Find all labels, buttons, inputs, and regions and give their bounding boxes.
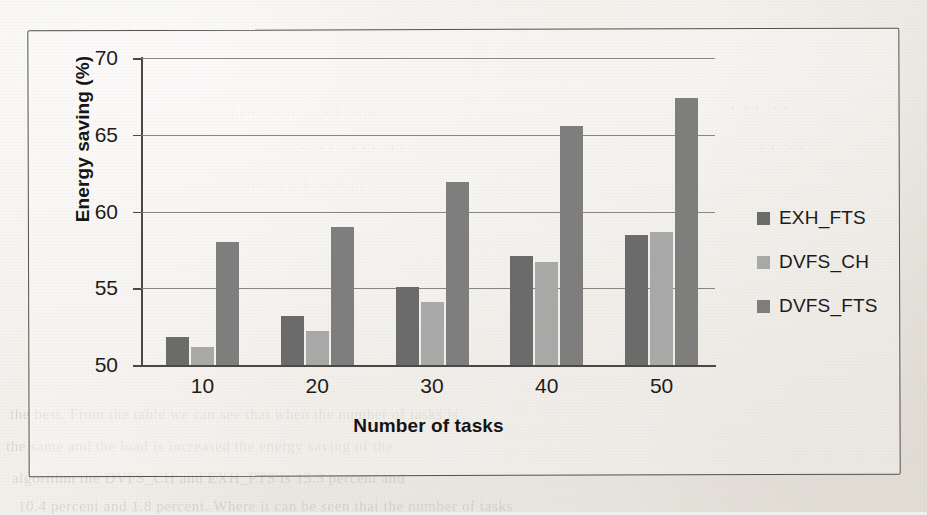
bar-dvfs_ch-30 [421,302,444,365]
x-axis-tick-label: 20 [287,374,347,398]
bar-group [281,58,354,365]
bar-dvfs_ch-10 [191,347,214,365]
legend-swatch-icon [757,256,770,269]
plot-area [141,58,715,365]
bar-dvfs_ch-50 [650,232,673,366]
legend-swatch-icon [757,300,770,313]
bar-dvfs_ch-20 [306,331,329,365]
bar-dvfs_ch-40 [535,262,558,365]
y-axis-tick-label: 50 [72,353,118,377]
x-axis-line [141,365,716,367]
y-axis-tick-labels: 5055606570 [72,0,118,512]
chart-legend: EXH_FTSDVFS_CHDVFS_FTS [757,196,878,328]
bar-exh_fts-30 [396,287,419,365]
y-axis-tick-label: 70 [72,46,118,70]
bar-exh_fts-40 [510,256,533,365]
legend-label: DVFS_FTS [779,295,878,317]
legend-item-dvfs_fts[interactable]: DVFS_FTS [757,284,878,328]
bar-dvfs_fts-40 [560,126,583,366]
legend-item-dvfs_ch[interactable]: DVFS_CH [757,240,878,284]
bar-dvfs_fts-20 [331,227,354,365]
x-axis-tick-label: 10 [172,374,232,398]
legend-item-exh_fts[interactable]: EXH_FTS [757,196,878,240]
bar-exh_fts-50 [625,235,648,366]
bar-exh_fts-20 [281,316,304,365]
bar-dvfs_fts-50 [675,98,698,365]
y-axis-tick-label: 55 [72,276,118,300]
x-axis-tick-label: 50 [632,374,692,398]
bar-group [166,58,239,365]
bar-group [396,58,469,365]
bar-dvfs_fts-10 [216,242,239,365]
x-axis-tick-label: 40 [517,374,577,398]
x-axis-tick-label: 30 [402,374,462,398]
bar-group [510,58,583,365]
bar-group [625,58,698,365]
y-axis-tick-label: 60 [72,200,118,224]
x-axis-title: Number of tasks [141,415,716,437]
legend-swatch-icon [757,212,770,225]
bar-exh_fts-10 [166,337,189,365]
legend-label: EXH_FTS [779,207,866,229]
y-axis-tick-label: 65 [72,123,118,147]
bar-dvfs_fts-30 [446,182,469,365]
legend-label: DVFS_CH [779,251,869,273]
